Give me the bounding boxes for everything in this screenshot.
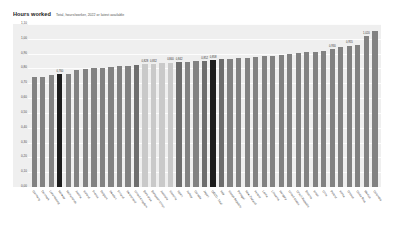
bar-slot[interactable]: 0,828	[141, 24, 150, 187]
bar[interactable]	[168, 63, 173, 187]
x-axis-tick: Chile	[320, 189, 329, 227]
bar-slot[interactable]: 0,842	[175, 24, 184, 187]
bar[interactable]	[262, 56, 267, 187]
bar-slot[interactable]: 0,840	[166, 24, 175, 187]
bar[interactable]	[193, 61, 198, 187]
bar[interactable]	[330, 49, 335, 187]
bar[interactable]	[347, 46, 352, 188]
bar[interactable]	[372, 31, 377, 187]
bar[interactable]	[32, 77, 37, 187]
bar[interactable]	[210, 60, 215, 187]
bar[interactable]	[49, 75, 54, 187]
y-axis-tick-label: 0,30	[21, 141, 27, 144]
bar-slot[interactable]	[98, 24, 107, 187]
bar-slot[interactable]: 0,760	[56, 24, 65, 187]
bar-slot[interactable]: 0,832	[149, 24, 158, 187]
bar[interactable]	[245, 58, 250, 188]
bar-slot[interactable]	[371, 24, 380, 187]
y-axis-tick-label: 1,10	[21, 22, 27, 25]
bar-slot[interactable]	[243, 24, 252, 187]
bar-slot[interactable]	[124, 24, 133, 187]
bar[interactable]	[66, 74, 71, 187]
x-axis-tick: Slovak Republic	[226, 189, 235, 227]
x-axis-tick-label: Colombia	[372, 190, 381, 202]
bar[interactable]	[134, 65, 139, 187]
x-axis-tick: France	[90, 189, 99, 227]
bar-value-label: 0,852	[201, 58, 208, 61]
bar-slot[interactable]	[251, 24, 260, 187]
bar[interactable]	[176, 62, 181, 187]
bar[interactable]	[321, 51, 326, 187]
x-axis-tick-label: Spain	[177, 190, 184, 198]
bar-slot[interactable]	[337, 24, 346, 187]
bar-slot[interactable]	[132, 24, 141, 187]
bar[interactable]	[74, 70, 79, 187]
bar[interactable]	[142, 64, 147, 187]
bar-slot[interactable]	[192, 24, 201, 187]
bar-slot[interactable]	[354, 24, 363, 187]
bar[interactable]	[270, 56, 275, 187]
bar-slot[interactable]	[217, 24, 226, 187]
bar[interactable]	[338, 47, 343, 187]
x-axis-tick: Ireland	[251, 189, 260, 227]
bar-slot[interactable]: 0,858	[209, 24, 218, 187]
bar[interactable]	[125, 66, 130, 188]
bar-slot[interactable]	[64, 24, 73, 187]
bar[interactable]	[202, 61, 207, 187]
bar[interactable]	[355, 45, 360, 187]
bar[interactable]	[364, 36, 369, 187]
bar[interactable]	[117, 66, 122, 187]
bar-slot[interactable]	[183, 24, 192, 187]
bar-slot[interactable]	[311, 24, 320, 187]
bar[interactable]	[219, 59, 224, 187]
bar-slot[interactable]	[39, 24, 48, 187]
bar[interactable]	[279, 55, 284, 187]
x-axis-tick: Spain	[175, 189, 184, 227]
bar[interactable]	[296, 53, 301, 187]
x-axis-tick: Costa Rica	[354, 189, 363, 227]
bar[interactable]	[151, 64, 156, 187]
bar-slot[interactable]	[234, 24, 243, 187]
bar[interactable]	[236, 58, 241, 187]
bar-value-label: 0,858	[210, 57, 217, 60]
bar-slot[interactable]: 0,852	[200, 24, 209, 187]
bar[interactable]	[108, 67, 113, 187]
bar-slot[interactable]	[268, 24, 277, 187]
bar[interactable]	[83, 69, 88, 187]
bar-slot[interactable]	[81, 24, 90, 187]
x-axis-tick: Portugal	[234, 189, 243, 227]
bar-slot[interactable]	[285, 24, 294, 187]
bar-slot[interactable]	[303, 24, 312, 187]
x-axis-tick: Mexico	[362, 189, 371, 227]
bar-slot[interactable]	[30, 24, 39, 187]
bar-slot[interactable]	[226, 24, 235, 187]
bar-slot[interactable]	[90, 24, 99, 187]
bar[interactable]	[185, 62, 190, 187]
bar[interactable]	[91, 68, 96, 187]
bar-slot[interactable]	[294, 24, 303, 187]
bar[interactable]	[57, 74, 62, 187]
bar[interactable]	[159, 63, 164, 187]
bar-slot[interactable]	[320, 24, 329, 187]
bar-slot[interactable]	[158, 24, 167, 187]
bar-slot[interactable]: 1,020	[362, 24, 371, 187]
bar[interactable]	[287, 54, 292, 187]
bar[interactable]	[304, 52, 309, 187]
bar-slot[interactable]	[73, 24, 82, 187]
bar[interactable]	[313, 52, 318, 187]
bar-slot[interactable]	[115, 24, 124, 187]
bar-slot[interactable]	[107, 24, 116, 187]
bar[interactable]	[227, 59, 232, 187]
bar-slot[interactable]	[47, 24, 56, 187]
bar[interactable]	[40, 77, 45, 187]
plot-area: 0,7600,8280,8320,8400,8420,8520,8580,930…	[28, 24, 381, 187]
bar-slot[interactable]	[260, 24, 269, 187]
bar-slot[interactable]	[277, 24, 286, 187]
bar-value-label: 0,840	[167, 59, 174, 62]
bar[interactable]	[253, 57, 258, 187]
bar[interactable]	[100, 68, 105, 187]
bar-value-label: 0,760	[56, 71, 63, 74]
bar-slot[interactable]: 0,930	[328, 24, 337, 187]
x-axis-tick: Israel	[311, 189, 320, 227]
bar-slot[interactable]: 0,955	[345, 24, 354, 187]
